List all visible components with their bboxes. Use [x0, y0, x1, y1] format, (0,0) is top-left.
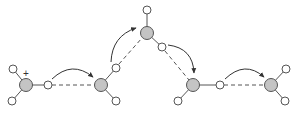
arrow-2	[111, 28, 136, 62]
hydrogen-atom	[174, 97, 182, 105]
positive-charge-label: +	[23, 68, 29, 79]
oxygen-atom-hydronium	[20, 79, 33, 92]
oxygen-atom-water-3	[141, 27, 154, 40]
hydrogen-atoms	[8, 6, 290, 105]
hydrogen-atom	[282, 65, 290, 73]
proton-hopping-diagram: +	[0, 0, 299, 115]
oxygen-atom-water-5	[265, 79, 278, 92]
arrow-4	[225, 69, 264, 79]
hydrogen-atom	[281, 97, 289, 105]
hydrogen-atom	[216, 81, 224, 89]
hydrogen-atom	[143, 6, 151, 14]
hydrogen-atom	[158, 43, 166, 51]
covalent-bonds	[12, 10, 286, 101]
oxygen-atom-water-4	[187, 79, 200, 92]
hydrogen-atom	[112, 64, 120, 72]
proton-transfer-arrows	[52, 28, 264, 79]
hydrogen-atom	[8, 97, 16, 105]
oxygen-atoms	[20, 27, 278, 92]
hydrogen-atom	[112, 97, 120, 105]
hydrogen-atom	[44, 81, 52, 89]
hydrogen-atom	[9, 65, 17, 73]
hbond-3	[165, 51, 189, 80]
hbond-2	[119, 38, 142, 64]
oxygen-atom-water-2	[95, 79, 108, 92]
arrow-1	[52, 69, 93, 79]
